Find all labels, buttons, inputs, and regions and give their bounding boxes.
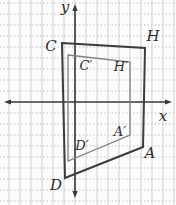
vertex-label-A: A bbox=[143, 144, 156, 162]
y-axis-label: y bbox=[60, 0, 70, 16]
vertex-label-D-prime: D′ bbox=[74, 138, 88, 153]
x-axis-label: x bbox=[159, 107, 168, 125]
x-axis-right-arrow-icon bbox=[165, 99, 172, 104]
geometry-figure: xyCHADC′H′A′D′ bbox=[0, 0, 176, 205]
y-axis-top-arrow-icon bbox=[72, 4, 77, 11]
vertex-label-D: D bbox=[49, 176, 62, 194]
vertex-label-C: C bbox=[45, 37, 57, 55]
y-axis-bottom-arrow-icon bbox=[72, 191, 77, 198]
vertex-label-H: H bbox=[145, 27, 160, 45]
vertex-label-H-prime: H′ bbox=[113, 59, 128, 74]
vertex-label-A-prime: A′ bbox=[113, 124, 126, 139]
vertex-label-C-prime: C′ bbox=[80, 58, 93, 73]
coordinate-plane-svg: xyCHADC′H′A′D′ bbox=[0, 0, 176, 205]
x-axis-left-arrow-icon bbox=[4, 99, 11, 104]
